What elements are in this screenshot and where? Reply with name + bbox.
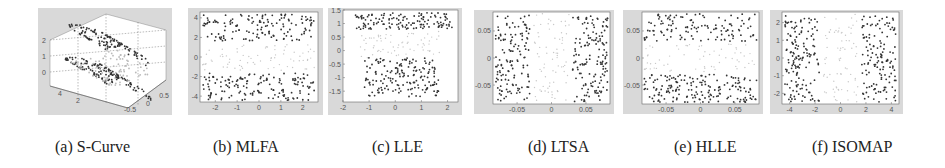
svg-text:0: 0 [839, 106, 843, 113]
panel-hlle: -0.0500.050.050-0.05 [623, 10, 763, 114]
svg-text:-0.5: -0.5 [329, 61, 341, 68]
svg-text:1: 1 [42, 53, 46, 60]
svg-text:0: 0 [776, 55, 780, 62]
svg-text:-2: -2 [340, 104, 346, 111]
svg-text:0.05: 0.05 [477, 27, 491, 34]
svg-text:2: 2 [42, 37, 46, 44]
caption-s-curve: (a) S-Curve [55, 138, 130, 156]
panel-mlfa: -2-1012420-2-4 [188, 8, 323, 115]
svg-text:2: 2 [446, 104, 450, 111]
panel-isomap: -4-2024210-1-2 [770, 10, 903, 114]
svg-text:0: 0 [146, 100, 150, 107]
svg-text:4: 4 [194, 14, 198, 21]
svg-text:0: 0 [194, 54, 198, 61]
svg-text:0: 0 [337, 47, 341, 54]
svg-text:0: 0 [487, 55, 491, 62]
panel-ltsa: -0.0500.050.050-0.05 [474, 10, 614, 114]
svg-text:-0.5: -0.5 [124, 106, 136, 113]
svg-text:2: 2 [76, 97, 80, 104]
svg-text:0: 0 [699, 106, 703, 113]
svg-text:-2: -2 [192, 73, 198, 80]
svg-text:0.05: 0.05 [728, 106, 742, 113]
svg-text:-0.05: -0.05 [624, 82, 640, 89]
svg-text:0.5: 0.5 [159, 92, 169, 99]
svg-text:-1: -1 [774, 72, 780, 79]
mlfa-scatter-plot: -2-1012420-2-4 [188, 8, 323, 115]
panel-lle: -2-10121.510.50-0.5-1-1.5 [328, 8, 462, 115]
svg-text:-4: -4 [787, 106, 793, 113]
svg-text:-0.05: -0.05 [475, 82, 491, 89]
svg-text:-0.05: -0.05 [509, 106, 525, 113]
svg-text:-1: -1 [335, 74, 341, 81]
svg-text:2: 2 [194, 34, 198, 41]
svg-text:0.05: 0.05 [626, 27, 640, 34]
svg-text:0.05: 0.05 [579, 106, 593, 113]
caption-lle: (c) LLE [372, 138, 423, 156]
svg-text:1: 1 [337, 20, 341, 27]
svg-text:-0.05: -0.05 [658, 106, 674, 113]
svg-text:4: 4 [58, 90, 62, 97]
s-curve-3d-plot: 01242-0.500.5 [38, 8, 172, 115]
svg-text:2: 2 [301, 104, 305, 111]
svg-text:0: 0 [42, 69, 46, 76]
caption-mlfa: (b) MLFA [213, 138, 279, 156]
svg-text:-1.5: -1.5 [329, 88, 341, 95]
svg-text:1.5: 1.5 [331, 8, 341, 14]
svg-text:2: 2 [864, 106, 868, 113]
svg-text:0: 0 [636, 55, 640, 62]
svg-text:1: 1 [419, 104, 423, 111]
lle-scatter-plot: -2-10121.510.50-0.5-1-1.5 [328, 8, 462, 115]
svg-text:1: 1 [776, 37, 780, 44]
svg-text:0: 0 [257, 104, 261, 111]
hlle-scatter-plot: -0.0500.050.050-0.05 [623, 10, 763, 114]
svg-text:-1: -1 [234, 104, 240, 111]
caption-isomap: (f) ISOMAP [812, 138, 892, 156]
svg-text:-1: -1 [366, 104, 372, 111]
svg-text:0.5: 0.5 [331, 34, 341, 41]
caption-hlle: (e) HLLE [674, 138, 737, 156]
svg-text:-2: -2 [212, 104, 218, 111]
svg-text:2: 2 [776, 19, 780, 26]
caption-ltsa: (d) LTSA [528, 138, 589, 156]
isomap-scatter-plot: -4-2024210-1-2 [770, 10, 903, 114]
svg-text:0: 0 [550, 106, 554, 113]
ltsa-scatter-plot: -0.0500.050.050-0.05 [474, 10, 614, 114]
svg-text:4: 4 [889, 106, 893, 113]
svg-text:0: 0 [393, 104, 397, 111]
svg-text:1: 1 [279, 104, 283, 111]
panel-s-curve: 01242-0.500.5 [38, 8, 172, 115]
svg-text:-4: -4 [192, 93, 198, 100]
svg-text:-2: -2 [812, 106, 818, 113]
svg-text:-2: -2 [774, 90, 780, 97]
